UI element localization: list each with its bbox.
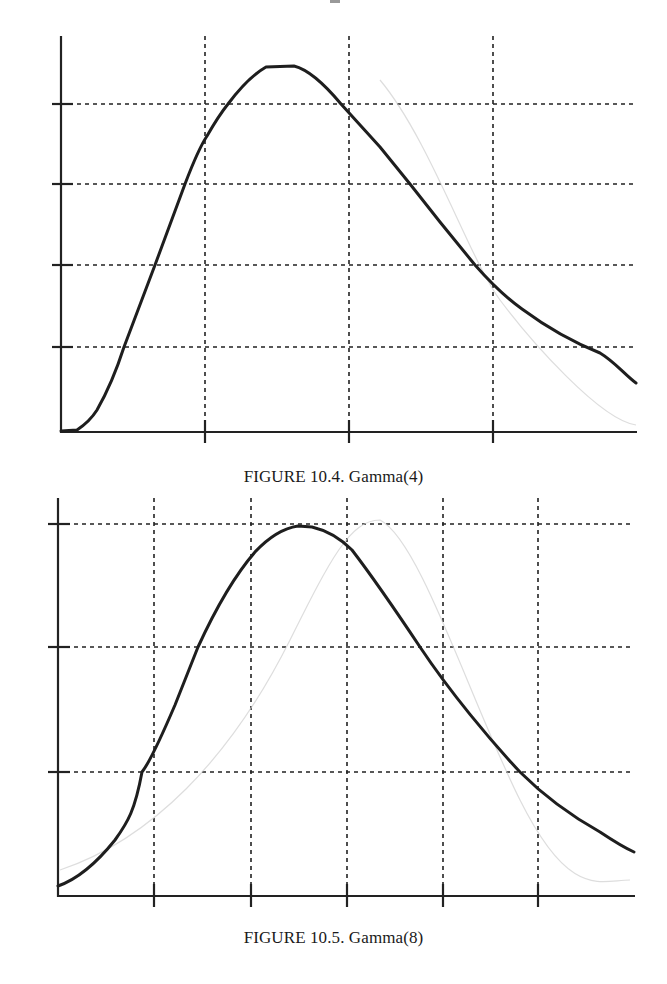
gamma4-axes [52, 36, 637, 443]
gamma8-chart [0, 490, 667, 920]
gamma8-showthrough-curve [60, 520, 630, 882]
figure-10-4-caption: FIGURE 10.4. Gamma(4) [0, 467, 667, 487]
gamma8-density-curve [58, 526, 634, 886]
figure-10-5-caption: FIGURE 10.5. Gamma(8) [0, 928, 667, 948]
gamma8-grid [58, 498, 634, 896]
gamma4-chart [0, 0, 667, 450]
gamma4-density-curve [61, 66, 636, 431]
gamma4-showthrough-curve [380, 80, 636, 425]
gamma4-grid [61, 36, 636, 432]
